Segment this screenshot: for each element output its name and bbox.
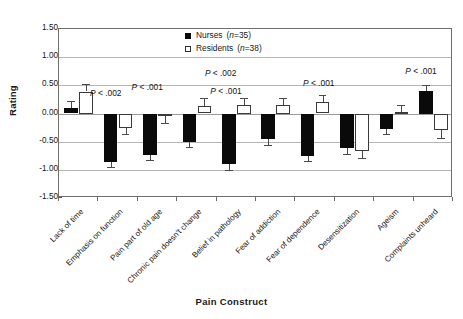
x-axis-title: Pain Construct bbox=[0, 296, 463, 307]
x-axis-tick-mark bbox=[216, 197, 217, 201]
pvalue-annotation: P < .001 bbox=[303, 78, 334, 88]
pvalue-annotation: P < .002 bbox=[205, 68, 236, 78]
x-axis-tick-mark bbox=[294, 197, 295, 201]
pvalue-annotation: P < .001 bbox=[405, 66, 436, 76]
pvalue-annotation: P < .001 bbox=[132, 82, 163, 92]
bar-chart: Rating 1.501.000.500.00-0.50-1.00-1.50 N… bbox=[0, 0, 463, 319]
x-axis-tick-mark bbox=[137, 197, 138, 201]
pvalue-annotation: P < .001 bbox=[210, 86, 241, 96]
x-axis-tick-mark bbox=[452, 197, 453, 201]
x-axis-tick-mark bbox=[255, 197, 256, 201]
pvalue-annotation: P < .002 bbox=[90, 88, 121, 98]
x-axis-tick-mark bbox=[176, 197, 177, 201]
x-axis-tick-mark bbox=[58, 197, 59, 201]
x-axis-tick-mark bbox=[97, 197, 98, 201]
x-axis-tick-mark bbox=[413, 197, 414, 201]
x-axis-tick-mark bbox=[373, 197, 374, 201]
x-axis-tick-mark bbox=[334, 197, 335, 201]
pvalue-annotations: P < .002P < .001P < .002P < .001P < .001… bbox=[0, 0, 463, 319]
